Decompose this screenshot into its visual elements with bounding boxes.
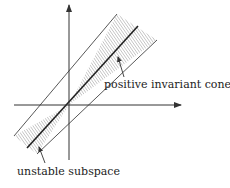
diagram-canvas: positive invariant cone unstable subspac… bbox=[0, 0, 230, 188]
subspace-label: unstable subspace bbox=[17, 165, 120, 178]
upper-cone-region bbox=[69, 14, 157, 105]
cone-label: positive invariant cone bbox=[104, 78, 230, 91]
lower-cone-region bbox=[14, 105, 69, 154]
